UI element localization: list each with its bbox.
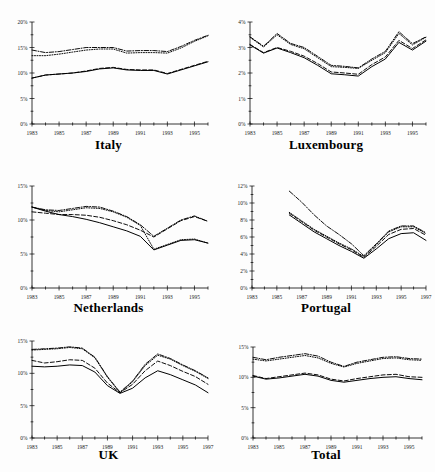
- y-tick-label: 12%: [238, 183, 248, 189]
- panel-grid: 0%5%10%15%20%198319851987198919911993199…: [0, 0, 435, 472]
- x-tick-label: 1989: [326, 130, 337, 136]
- x-tick-label: 1995: [189, 130, 200, 136]
- plot-area-portugal: 0%2%4%6%8%10%12%198319851987198919911993…: [238, 183, 432, 300]
- series-line-solid: [250, 41, 426, 76]
- y-tick-label: 10%: [18, 70, 28, 76]
- series-line-solid: [32, 365, 208, 393]
- y-tick-label: 0%: [241, 435, 249, 441]
- y-tick-label: 3%: [238, 45, 246, 51]
- chart-panel-italy: 0%5%10%15%20%198319851987198919911993199…: [0, 0, 217, 160]
- series-line-dashed: [32, 212, 208, 237]
- x-tick-label: 1993: [162, 130, 173, 136]
- y-tick-label: 5%: [20, 251, 28, 257]
- y-tick-label: 2%: [238, 70, 246, 76]
- series-line-dashdot: [250, 32, 426, 68]
- panel-title-netherlands: Netherlands: [0, 300, 217, 316]
- series-line-solid: [253, 374, 422, 382]
- y-tick-label: 10%: [18, 217, 28, 223]
- chart-panel-uk: 0%5%10%15%198319851987198919911993199519…: [0, 325, 217, 472]
- x-tick-label: 1993: [380, 130, 391, 136]
- x-tick-label: 1991: [135, 130, 146, 136]
- plot-area-luxembourg: 0%1%2%3%4%1983198519871989199119931995: [238, 19, 426, 136]
- y-tick-label: 10%: [239, 374, 249, 380]
- chart-panel-netherlands: 0%5%10%15%1983198519871989199119931995 N…: [0, 160, 217, 325]
- chart-panel-total: 0%5%10%15%1983198519871989199119931995 T…: [217, 325, 435, 472]
- y-tick-label: 1%: [238, 96, 246, 102]
- y-tick-label: 4%: [240, 251, 248, 257]
- y-tick-label: 2%: [240, 268, 248, 274]
- y-tick-label: 5%: [20, 96, 28, 102]
- series-line-dashdot: [253, 354, 422, 367]
- series-line-dashdot: [32, 347, 208, 392]
- chart-svg-luxembourg: 0%1%2%3%4%1983198519871989199119931995: [217, 0, 435, 160]
- plot-area-total: 0%5%10%15%1983198519871989199119931995: [239, 344, 422, 450]
- panel-title-uk: UK: [0, 447, 217, 463]
- series-line-dotted: [32, 347, 208, 392]
- y-tick-label: 0%: [238, 121, 246, 127]
- y-tick-label: 5%: [241, 405, 249, 411]
- plot-area-italy: 0%5%10%15%20%198319851987198919911993199…: [18, 19, 208, 136]
- plot-area-uk: 0%5%10%15%198319851987198919911993199519…: [18, 338, 214, 450]
- series-line-solid: [289, 215, 426, 258]
- y-tick-label: 0%: [20, 121, 28, 127]
- x-tick-label: 1985: [272, 130, 283, 136]
- x-tick-label: 1989: [108, 130, 119, 136]
- x-tick-label: 1983: [27, 130, 38, 136]
- y-tick-label: 6%: [240, 234, 248, 240]
- series-line-dashed: [32, 61, 208, 78]
- panel-title-luxembourg: Luxembourg: [217, 137, 435, 153]
- y-tick-label: 5%: [20, 403, 28, 409]
- y-tick-label: 20%: [18, 19, 28, 25]
- series-line-dashed: [289, 213, 426, 257]
- y-tick-label: 4%: [238, 19, 246, 25]
- series-line-dashdot: [32, 35, 208, 52]
- panel-title-portugal: Portugal: [217, 300, 435, 316]
- series-line-solid: [32, 62, 208, 78]
- series-line-dotted: [250, 33, 426, 68]
- y-tick-label: 10%: [238, 200, 248, 206]
- panel-title-total: Total: [217, 447, 435, 463]
- x-tick-label: 1991: [353, 130, 364, 136]
- y-tick-label: 10%: [18, 370, 28, 376]
- series-line-dashed: [250, 40, 426, 74]
- y-tick-label: 15%: [18, 338, 28, 344]
- x-tick-label: 1985: [54, 130, 65, 136]
- y-tick-label: 0%: [240, 285, 248, 291]
- chart-svg-italy: 0%5%10%15%20%198319851987198919911993199…: [0, 0, 217, 160]
- x-tick-label: 1995: [407, 130, 418, 136]
- chart-panel-luxembourg: 0%1%2%3%4%1983198519871989199119931995 L…: [217, 0, 435, 160]
- x-tick-label: 1983: [245, 130, 256, 136]
- x-tick-label: 1987: [299, 130, 310, 136]
- chart-panel-portugal: 0%2%4%6%8%10%12%198319851987198919911993…: [217, 160, 435, 325]
- small-multiples-figure: 0%5%10%15%20%198319851987198919911993199…: [0, 0, 435, 472]
- y-tick-label: 0%: [20, 285, 28, 291]
- x-tick-label: 1987: [81, 130, 92, 136]
- y-tick-label: 8%: [240, 217, 248, 223]
- series-line-dashdot: [32, 206, 208, 236]
- plot-area-netherlands: 0%5%10%15%1983198519871989199119931995: [18, 183, 208, 300]
- y-tick-label: 15%: [18, 183, 28, 189]
- series-line-dashdot: [289, 191, 426, 256]
- y-tick-label: 15%: [239, 344, 249, 350]
- y-tick-label: 0%: [20, 435, 28, 441]
- panel-title-italy: Italy: [0, 137, 217, 153]
- y-tick-label: 15%: [18, 45, 28, 51]
